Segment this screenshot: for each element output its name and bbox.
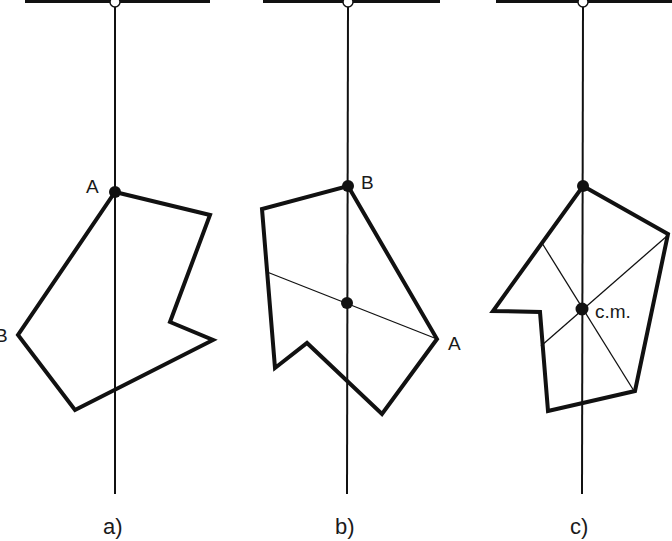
point-label-b-A: A [448, 333, 461, 354]
plumb-line-c [582, 5, 583, 494]
panel-a: A B a) [0, 0, 213, 539]
point-label-b-B: B [361, 172, 374, 193]
center-of-mass-label: c.m. [595, 301, 631, 322]
pivot-ring-b [343, 0, 353, 7]
center-of-mass-point [576, 303, 589, 316]
caption-c: c) [570, 514, 588, 539]
suspension-point-c [577, 180, 589, 192]
panel-c: c.m. c) [493, 0, 672, 539]
point-label-a-A: A [86, 176, 99, 197]
caption-b: b) [335, 514, 355, 539]
caption-a: a) [103, 514, 123, 539]
plumb-line-b [347, 5, 348, 494]
intersection-point-b [341, 297, 353, 309]
panel-b: B A b) [262, 0, 461, 539]
point-label-a-B: B [0, 325, 8, 346]
pivot-ring-c [578, 0, 588, 7]
pivot-ring-a [110, 0, 120, 7]
suspension-point-a [109, 186, 121, 198]
irregular-body-c [493, 186, 668, 411]
suspension-point-b [342, 180, 354, 192]
center-of-mass-diagram: A B a) B A b) c.m. c) [0, 0, 672, 541]
